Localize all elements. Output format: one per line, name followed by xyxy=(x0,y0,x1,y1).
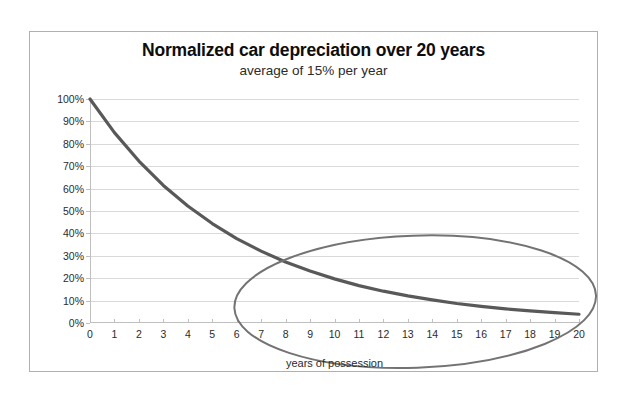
x-axis-tick-mark xyxy=(163,319,164,323)
gridline xyxy=(90,256,579,257)
x-axis-tick-label: 4 xyxy=(185,328,191,340)
y-axis-tick-mark xyxy=(86,211,90,212)
y-axis-tick-mark xyxy=(86,233,90,234)
x-axis-tick-label: 5 xyxy=(209,328,215,340)
y-axis-tick-mark xyxy=(86,144,90,145)
y-axis-tick-mark xyxy=(86,166,90,167)
y-axis-tick-mark xyxy=(86,323,90,324)
x-axis-tick-mark xyxy=(506,319,507,323)
x-axis-tick-mark xyxy=(359,319,360,323)
x-axis-tick-label: 8 xyxy=(283,328,289,340)
x-axis-tick-mark xyxy=(457,319,458,323)
x-axis-tick-label: 11 xyxy=(353,328,364,340)
y-axis-tick-mark xyxy=(86,278,90,279)
x-axis-tick-mark xyxy=(261,319,262,323)
y-axis-tick-label: 60% xyxy=(63,183,84,195)
series-line xyxy=(90,99,579,314)
y-axis-tick-label: 20% xyxy=(63,272,84,284)
y-axis-tick-label: 80% xyxy=(63,138,84,150)
x-axis-tick-mark xyxy=(286,319,287,323)
gridline xyxy=(90,121,579,122)
x-axis-tick-label: 13 xyxy=(402,328,414,340)
y-axis-tick-label: 0% xyxy=(69,317,84,329)
x-axis-tick-mark xyxy=(139,319,140,323)
x-axis-title: years of possession xyxy=(90,357,579,369)
y-axis-tick-mark xyxy=(86,121,90,122)
y-axis-tick-label: 100% xyxy=(57,93,84,105)
y-axis-tick-mark xyxy=(86,301,90,302)
x-axis-tick-label: 7 xyxy=(258,328,264,340)
x-axis-tick-label: 10 xyxy=(329,328,341,340)
gridline xyxy=(90,99,579,100)
chart-frame: Normalized car depreciation over 20 year… xyxy=(29,31,598,372)
y-axis-tick-label: 70% xyxy=(63,160,84,172)
x-axis-tick-mark xyxy=(432,319,433,323)
x-axis-tick-label: 0 xyxy=(87,328,93,340)
x-axis-tick-label: 2 xyxy=(136,328,142,340)
x-axis-tick-mark xyxy=(408,319,409,323)
x-axis-tick-label: 15 xyxy=(451,328,463,340)
gridline xyxy=(90,166,579,167)
chart-title-block: Normalized car depreciation over 20 year… xyxy=(30,40,597,80)
x-axis-tick-mark xyxy=(90,319,91,323)
y-axis-line xyxy=(90,99,91,323)
x-axis-tick-mark xyxy=(481,319,482,323)
gridline xyxy=(90,301,579,302)
x-axis-tick-label: 12 xyxy=(378,328,390,340)
x-axis-tick-mark xyxy=(310,319,311,323)
highlight-ellipse xyxy=(232,229,598,374)
gridline xyxy=(90,211,579,212)
x-axis-tick-label: 16 xyxy=(475,328,487,340)
y-axis-tick-label: 50% xyxy=(63,205,84,217)
x-axis-tick-mark xyxy=(212,319,213,323)
y-axis-tick-mark xyxy=(86,99,90,100)
x-axis-tick-label: 6 xyxy=(234,328,240,340)
plot-area: 0%10%20%30%40%50%60%70%80%90%100% 012345… xyxy=(90,99,579,323)
x-axis-tick-mark xyxy=(383,319,384,323)
gridline xyxy=(90,233,579,234)
x-axis-tick-label: 3 xyxy=(160,328,166,340)
x-axis-tick-label: 1 xyxy=(112,328,118,340)
x-axis-tick-mark xyxy=(335,319,336,323)
x-axis-tick-label: 20 xyxy=(573,328,585,340)
x-axis-tick-mark xyxy=(579,319,580,323)
y-axis-tick-label: 10% xyxy=(63,295,84,307)
gridline xyxy=(90,189,579,190)
y-axis-tick-mark xyxy=(86,256,90,257)
gridline xyxy=(90,144,579,145)
chart-subtitle: average of 15% per year xyxy=(30,62,597,80)
x-axis-tick-label: 14 xyxy=(426,328,438,340)
x-axis-tick-mark xyxy=(114,319,115,323)
x-axis-tick-mark xyxy=(237,319,238,323)
y-axis-tick-label: 40% xyxy=(63,227,84,239)
x-axis-tick-mark xyxy=(530,319,531,323)
y-axis-tick-label: 90% xyxy=(63,115,84,127)
x-axis-tick-label: 9 xyxy=(307,328,313,340)
x-axis-tick-mark xyxy=(188,319,189,323)
gridline xyxy=(90,278,579,279)
x-axis-tick-label: 18 xyxy=(524,328,536,340)
y-axis-tick-label: 30% xyxy=(63,250,84,262)
y-axis-tick-mark xyxy=(86,189,90,190)
page-title: Normalized car depreciation over 20 year… xyxy=(30,40,597,60)
x-axis-tick-label: 19 xyxy=(549,328,561,340)
x-axis-tick-label: 17 xyxy=(500,328,512,340)
x-axis-tick-mark xyxy=(555,319,556,323)
